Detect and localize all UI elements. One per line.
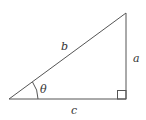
angle-arc xyxy=(33,82,39,99)
label-hypotenuse: b xyxy=(61,40,68,53)
label-angle: θ xyxy=(40,83,47,96)
triangle xyxy=(9,13,126,99)
label-adjacent: c xyxy=(71,104,77,117)
right-angle-marker xyxy=(118,91,127,100)
right-triangle-diagram: b a c θ xyxy=(0,0,146,120)
label-opposite: a xyxy=(133,52,140,65)
